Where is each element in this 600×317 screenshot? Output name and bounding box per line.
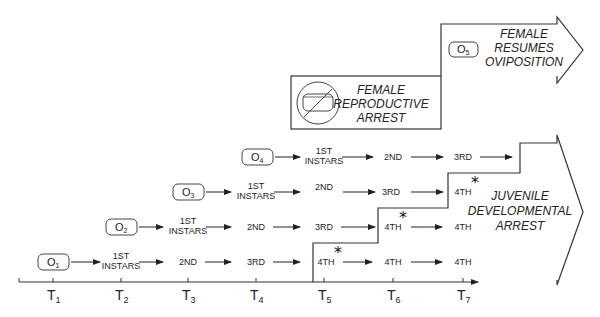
cohort-row-o3: O3 1ST INSTARS 2ND 3RD 4TH * xyxy=(173,173,479,201)
asterisk-marker: * xyxy=(334,243,342,262)
tick-t1: T1 xyxy=(47,287,61,305)
juvenile-line2: DEVELOPMENTAL xyxy=(468,204,572,218)
asterisk-marker: * xyxy=(471,173,479,192)
cohort-row-o4: O4 1ST INSTARS 2ND 3RD xyxy=(242,146,512,166)
tick-t4: T4 xyxy=(250,287,264,305)
oviposition-label-o2: O2 xyxy=(115,221,128,234)
resumes-line3: OVIPOSITION xyxy=(485,55,563,69)
stage-label: INSTARS xyxy=(237,191,275,201)
stage-label: INSTARS xyxy=(169,226,207,236)
stage-label: 4TH xyxy=(454,187,471,197)
tick-t2: T2 xyxy=(115,287,129,305)
stage-label: 2ND xyxy=(384,152,403,162)
stage-label: 3RD xyxy=(382,187,401,197)
stage-label: 2ND xyxy=(179,257,198,267)
resumes-line1: FEMALE xyxy=(500,27,549,41)
stage-label: INSTARS xyxy=(305,156,343,166)
cohort-row-o2: O2 1ST INSTARS 2ND 3RD 4TH * 4TH xyxy=(106,208,472,236)
oviposition-label-o4: O4 xyxy=(251,151,264,164)
tick-t5: T5 xyxy=(318,287,332,305)
arrest-line2: REPRODUCTIVE xyxy=(333,97,429,111)
stage-label: 3RD xyxy=(454,152,473,162)
tick-t3: T3 xyxy=(182,287,196,305)
stage-label: 1ST xyxy=(248,181,265,191)
arrest-line3: ARREST xyxy=(356,111,407,125)
female-reproductive-arrest-box: FEMALE REPRODUCTIVE ARREST xyxy=(291,76,441,129)
stage-label: 4TH xyxy=(384,257,401,267)
stage-label: 4TH xyxy=(454,257,471,267)
tick-t7: T7 xyxy=(457,287,471,305)
juvenile-line1: JUVENILE xyxy=(490,189,549,203)
tick-t6: T6 xyxy=(387,287,401,305)
stage-label: INSTARS xyxy=(102,261,140,271)
asterisk-marker: * xyxy=(399,208,407,227)
stage-label: 3RD xyxy=(315,222,334,232)
oviposition-label-o5: O5 xyxy=(457,43,470,56)
oviposition-label-o1: O1 xyxy=(47,256,60,269)
oviposition-label-o3: O3 xyxy=(182,186,195,199)
stage-label: 1ST xyxy=(113,251,130,261)
cohort-row-o1: O1 1ST INSTARS 2ND 3RD 4TH * 4TH 4TH xyxy=(38,243,472,271)
stage-label: 1ST xyxy=(316,146,333,156)
stage-label: 4TH xyxy=(454,222,471,232)
arrest-line1: FEMALE xyxy=(357,83,406,97)
stage-label: 2ND xyxy=(315,182,334,192)
life-cycle-diagram: O5 FEMALE RESUMES OVIPOSITION FEMALE REP… xyxy=(0,0,600,317)
stage-label: 2ND xyxy=(247,222,266,232)
stage-label: 4TH xyxy=(317,257,334,267)
juvenile-line3: ARREST xyxy=(495,219,546,233)
female-resumes-oviposition-arrow: O5 FEMALE RESUMES OVIPOSITION xyxy=(441,17,583,83)
time-axis: T1 T2 T3 T4 T5 T6 T7 xyxy=(19,278,478,305)
stage-label: 3RD xyxy=(247,257,266,267)
resumes-line2: RESUMES xyxy=(494,41,553,55)
stage-label: 1ST xyxy=(180,216,197,226)
